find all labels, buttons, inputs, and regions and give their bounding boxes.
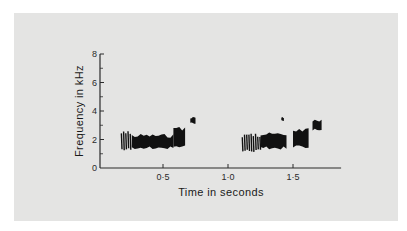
x-tick-label: 1·5: [286, 172, 299, 182]
call-2-striated-onset: [242, 134, 260, 152]
call-1-main-band: [132, 134, 174, 149]
x-tick-label: 1·0: [221, 172, 234, 182]
spectrogram-chart: 024680·51·01·5 Time in seconds Frequency…: [0, 0, 407, 231]
call-1-rising-tail: [173, 127, 185, 147]
spectrogram-marks: [121, 117, 321, 152]
y-tick-label: 2: [92, 135, 97, 145]
call-1-striated-onset: [121, 131, 130, 150]
x-tick-label: 0·5: [156, 172, 169, 182]
call-2-rising-tail: [293, 128, 309, 148]
y-tick-label: 8: [92, 49, 97, 59]
y-tick-label: 6: [92, 78, 97, 88]
call-2-dot: [281, 117, 284, 121]
call-1-high-note: [190, 117, 195, 124]
y-axis-title: Frequency in kHz: [73, 65, 85, 157]
call-2-main-band: [261, 133, 287, 150]
x-axis-title: Time in seconds: [178, 186, 264, 198]
call-2-high-note: [313, 120, 322, 131]
axes: 024680·51·01·5: [92, 49, 341, 182]
y-tick-label: 0: [92, 163, 97, 173]
y-tick-label: 4: [92, 106, 97, 116]
